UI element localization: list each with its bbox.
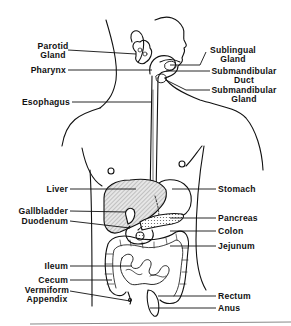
label-sublingual-gland: Sublingual Gland bbox=[208, 46, 258, 64]
label-pancreas: Pancreas bbox=[218, 214, 258, 223]
label-pharynx: Pharynx bbox=[20, 66, 66, 75]
label-vermiform-appendix: Vermiform Appendix bbox=[22, 286, 72, 304]
leader-submandibular-gland bbox=[166, 80, 210, 90]
label-cecum: Cecum bbox=[20, 276, 68, 285]
label-liver: Liver bbox=[20, 185, 68, 194]
label-gallbladder: Gallbladder bbox=[10, 207, 68, 216]
label-sublingual-line2: Gland bbox=[208, 55, 258, 64]
leader-parotid bbox=[68, 50, 136, 54]
label-parotid-gland: Parotid Gland bbox=[35, 42, 71, 60]
label-appendix-line2: Appendix bbox=[22, 295, 72, 304]
label-submandibular-gland: Submandibular Gland bbox=[211, 86, 277, 104]
label-duodenum: Duodenum bbox=[10, 217, 68, 226]
bottom-rule bbox=[30, 322, 291, 324]
label-anus: Anus bbox=[218, 304, 240, 313]
face-profile bbox=[155, 17, 186, 78]
label-submandibular-duct: Submandibular Duct bbox=[211, 67, 277, 85]
shoulder-left bbox=[62, 108, 100, 146]
head-back-outline bbox=[100, 20, 116, 108]
label-colon: Colon bbox=[218, 227, 243, 236]
label-stomach: Stomach bbox=[218, 185, 256, 194]
label-parotid-line2: Gland bbox=[35, 51, 71, 60]
label-rectum: Rectum bbox=[218, 292, 251, 301]
label-jejunum: Jejunum bbox=[218, 242, 255, 251]
label-esophagus: Esophagus bbox=[10, 98, 70, 107]
label-subgland-line2: Gland bbox=[211, 95, 277, 104]
label-subduct-line2: Duct bbox=[211, 76, 277, 85]
torso-left bbox=[82, 148, 102, 186]
digestive-system-diagram: Parotid Gland Pharynx Esophagus Liver Ga… bbox=[0, 0, 291, 326]
label-ileum: Ileum bbox=[20, 262, 68, 271]
rectum-shape bbox=[147, 290, 159, 316]
